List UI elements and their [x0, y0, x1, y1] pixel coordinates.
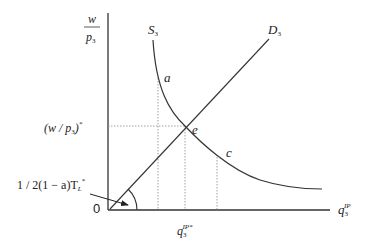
y-axis-label-denominator: p3 [86, 31, 96, 45]
y-axis-numerator: w [88, 12, 96, 26]
x-axis-label: q3IP [338, 203, 351, 218]
equilibrium-quantity-sub: 3 [183, 231, 187, 239]
x-axis-label-sub: 3 [345, 210, 349, 218]
x-axis-label-sup: IP [344, 202, 351, 210]
y-axis-denominator-sub: 3 [92, 37, 96, 45]
angle-annotation-label: 1 / 2(1 − a)TL* [17, 178, 85, 193]
point-a-label: a [164, 71, 171, 84]
point-c-label: c [226, 146, 232, 159]
point-e-label: e [192, 123, 198, 136]
equilibrium-price-text: (w / p [44, 121, 71, 135]
demand-curve-label-base: D [268, 22, 277, 37]
supply-curve-label-sub: 3 [155, 30, 159, 38]
equilibrium-quantity-sup: IP* [183, 223, 193, 231]
angle-arc [128, 189, 137, 210]
angle-annotation-text: 1 / 2(1 − a)T [17, 178, 78, 192]
angle-annotation-sub: L [78, 185, 82, 193]
demand-curve-label-sub: 3 [277, 30, 281, 38]
equilibrium-price-label: (w / p3)* [44, 121, 82, 136]
demand-line-d3 [110, 39, 269, 209]
supply-curve-s3 [153, 40, 322, 189]
demand-curve-label: D3 [268, 23, 281, 38]
equilibrium-quantity-label: q3IP* [177, 224, 193, 239]
angle-annotation-sup: * [82, 177, 86, 185]
supply-demand-diagram: w p3 S3 D3 a e c (w / p3)* 1 / 2(1 − a)T… [0, 0, 370, 252]
origin-label: 0 [93, 202, 100, 215]
equilibrium-price-sup: * [79, 120, 83, 128]
y-axis-label-numerator: w [88, 13, 96, 25]
supply-curve-label: S3 [148, 23, 158, 38]
